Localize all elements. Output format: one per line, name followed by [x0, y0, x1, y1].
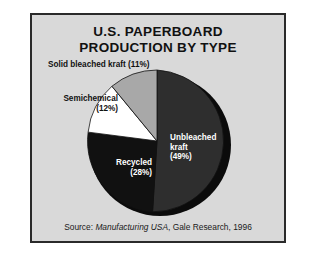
pie-label-solid-bleached-kraft: Solid bleached kraft (11%): [48, 60, 149, 70]
pie-chart-svg: [32, 15, 286, 243]
source-note: Source: Manufacturing USA, Gale Research…: [32, 222, 284, 232]
source-note-prefix: Source:: [64, 222, 95, 232]
pie-label-semichemical-name: Semichemical: [46, 94, 118, 104]
chart-frame: U.S. PAPERBOARD PRODUCTION BY TYPE Solid…: [30, 13, 286, 243]
source-note-suffix: , Gale Research, 1996: [168, 222, 252, 232]
pie-label-unbleached-kraft: Unbleached kraft (49%): [170, 133, 216, 162]
source-note-publication: Manufacturing USA: [95, 222, 168, 232]
pie-label-unbleached-kraft-name: Unbleached: [170, 133, 216, 143]
pie-label-recycled: Recycled (28%): [86, 158, 152, 177]
pie-label-unbleached-kraft-percent: (49%): [170, 152, 216, 162]
pie-label-recycled-name: Recycled: [86, 158, 152, 168]
pie-chart: Solid bleached kraft (11%) Semichemical …: [32, 15, 284, 241]
pie-label-solid-bleached-kraft-text: Solid bleached kraft (11%): [48, 60, 149, 70]
pie-label-semichemical-percent: (12%): [46, 104, 118, 114]
pie-label-semichemical: Semichemical (12%): [46, 94, 118, 113]
pie-label-recycled-percent: (28%): [86, 168, 152, 178]
pie-label-unbleached-kraft-name-2: kraft: [170, 143, 216, 153]
